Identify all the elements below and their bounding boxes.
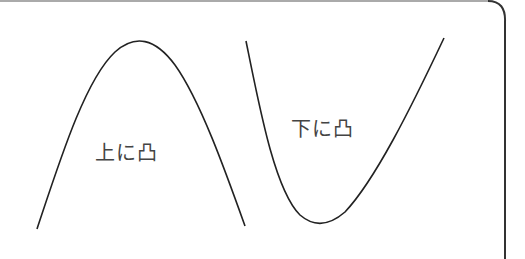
concave-down-label: 上に凸 — [95, 137, 158, 166]
concave-up-label: 下に凸 — [291, 113, 354, 142]
concave-down-curve — [37, 41, 245, 229]
diagram-canvas — [0, 0, 525, 259]
frame-right-border — [488, 1, 505, 259]
